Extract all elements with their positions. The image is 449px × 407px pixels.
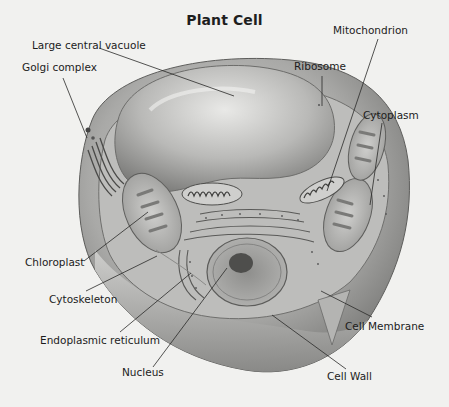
vacuole-shape	[115, 65, 335, 192]
label-cytoplasm: Cytoplasm	[363, 109, 419, 121]
label-cell-membrane: Cell Membrane	[345, 320, 424, 332]
label-cell-wall: Cell Wall	[327, 370, 372, 382]
nucleus-shape	[207, 238, 287, 306]
label-golgi-complex: Golgi complex	[22, 61, 97, 73]
label-large-central-vacuole: Large central vacuole	[32, 39, 146, 51]
label-chloroplast: Chloroplast	[25, 256, 84, 268]
mitochondrion-shape	[182, 183, 242, 205]
nucleolus-shape	[229, 253, 253, 273]
label-nucleus: Nucleus	[122, 366, 164, 378]
label-endoplasmic-reticulum: Endoplasmic reticulum	[40, 334, 160, 346]
label-mitochondrion: Mitochondrion	[333, 24, 408, 36]
label-cytoskeleton: Cytoskeleton	[49, 293, 117, 305]
label-ribosome: Ribosome	[294, 60, 346, 72]
plant-cell-diagram: Plant Cell Mitochondrion Large central v…	[0, 0, 449, 407]
